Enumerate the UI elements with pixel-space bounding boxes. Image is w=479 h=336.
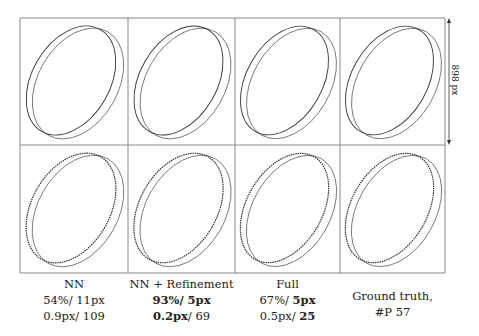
disk-back-contour [121, 139, 250, 283]
caption-title: Full [233, 276, 343, 292]
caption-title: NN [19, 276, 129, 292]
caption-column-2: NN + Refinement93%/ 5px0.2px/ 69 [127, 276, 237, 324]
disk-back-contour [228, 139, 355, 282]
disk-back-contour [13, 139, 142, 283]
disk-front-contour [222, 138, 347, 278]
disk-front-contour [116, 10, 242, 150]
caption-column-4: Ground truth,#P 57 [338, 288, 448, 320]
caption-metric-line-1: 67%/ 5px [233, 292, 343, 308]
disk-front-contour [327, 11, 451, 151]
caption-metric-line-2: 0.2px/ 69 [127, 308, 237, 324]
disk-back-contour [333, 12, 460, 154]
caption-metric-line-1: #P 57 [338, 304, 448, 320]
arrow-down-icon [447, 140, 451, 145]
caption-metric-line-2: 0.5px/ 25 [233, 308, 343, 324]
caption-title: Ground truth, [338, 288, 448, 304]
caption-column-1: NN54%/ 11px0.9px/ 109 [19, 276, 129, 324]
disk-front-contour [327, 138, 452, 278]
caption-column-3: Full67%/ 5px0.5px/ 25 [233, 276, 343, 324]
disk-back-contour [333, 139, 460, 282]
caption-metric-line-1: 54%/ 11px [19, 292, 129, 308]
disk-back-contour [121, 12, 249, 155]
arrow-up-icon [447, 18, 451, 23]
disk-front-contour [8, 10, 134, 151]
disk-back-contour [14, 12, 143, 155]
disk-front-contour [116, 137, 242, 278]
caption-metric-line-1: 93%/ 5px [127, 292, 237, 308]
disk-back-contour [228, 12, 355, 154]
scale-label: 898 px [450, 65, 460, 96]
caption-title: NN + Refinement [127, 276, 237, 292]
disk-front-contour [222, 11, 346, 151]
disk-front-contour [8, 137, 135, 278]
caption-metric-line-2: 0.9px/ 109 [19, 308, 129, 324]
